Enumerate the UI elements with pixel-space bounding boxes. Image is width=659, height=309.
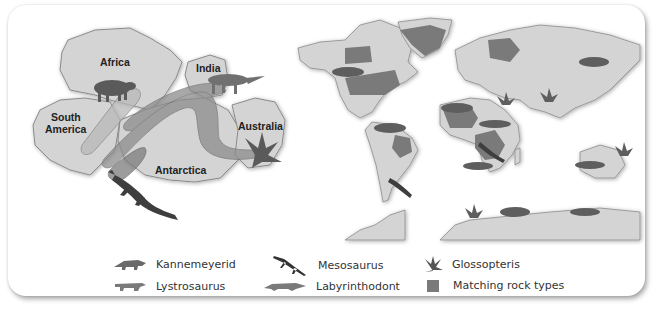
- legend-label-kannemeyerid: Kannemeyerid: [156, 258, 236, 271]
- rock-swatch-icon: [427, 280, 439, 292]
- labyrinthodont-icon: [570, 208, 600, 216]
- legend-label-glossopteris: Glossopteris: [452, 258, 520, 271]
- label-india: India: [196, 62, 221, 74]
- labyrinthodont-icon: [575, 161, 605, 169]
- kannemeyerid-icon: [332, 67, 364, 77]
- label-australia: Australia: [238, 120, 283, 132]
- continent-antarctica-west: [345, 210, 405, 240]
- legend-item-kannemeyerid: Kannemeyerid: [112, 257, 236, 271]
- glossopteris-icon: [422, 255, 444, 273]
- continent-madagascar: [515, 148, 520, 165]
- lystrosaurus-icon: [579, 57, 609, 67]
- mesosaurus-icon: [270, 253, 310, 277]
- kannemeyerid-icon: [374, 123, 406, 133]
- legend-item-labyrinthodont: Labyrinthodont: [262, 279, 400, 293]
- label-south-america-2: America: [45, 123, 87, 135]
- kannemeyerid-icon: [112, 257, 148, 271]
- lystrosaurus-icon: [500, 207, 530, 217]
- legend-label-lystrosaurus: Lystrosaurus: [156, 280, 225, 293]
- glossopteris-icon: [465, 204, 483, 218]
- legend-label-labyrinthodont: Labyrinthodont: [316, 280, 400, 293]
- legend-item-matching-rock-types: Matching rock types: [427, 279, 564, 292]
- labyrinthodont-icon: [262, 279, 308, 293]
- continent-south-america-modern: [365, 122, 418, 202]
- label-south-america-1: South: [51, 111, 81, 123]
- legend-item-mesosaurus: Mesosaurus: [270, 253, 383, 277]
- lystrosaurus-icon: [112, 279, 148, 293]
- legend-label-matching-rock-types: Matching rock types: [453, 279, 564, 292]
- legend-label-mesosaurus: Mesosaurus: [318, 259, 383, 272]
- legend-item-lystrosaurus: Lystrosaurus: [112, 279, 225, 293]
- labyrinthodont-icon: [479, 120, 511, 128]
- legend-item-glossopteris: Glossopteris: [422, 255, 520, 273]
- label-africa: Africa: [100, 56, 130, 68]
- labyrinthodont-icon: [463, 162, 493, 170]
- kannemeyerid-icon: [441, 103, 473, 113]
- label-antarctica: Antarctica: [155, 164, 207, 176]
